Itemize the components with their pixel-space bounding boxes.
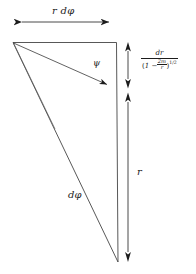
denominator-one-minus: 1 − (145, 62, 158, 70)
right-dimension-lower-arrowhead-top (125, 93, 131, 103)
right-dimension-upper (125, 42, 131, 89)
label-arc-length: r dφ (52, 6, 75, 16)
triangle-right-edge (117, 43, 119, 263)
apex-secondary-ray-line (14, 43, 56, 129)
label-radius-r: r (137, 167, 142, 177)
label-angle-psi: ψ (93, 59, 100, 68)
label-proper-radial-distance: dr (1 −2mr)1/2 (141, 50, 178, 71)
exponent-half: 1/2 (169, 60, 176, 65)
right-dimension-upper-arrowhead-top (125, 42, 131, 52)
right-dimension-lower (125, 93, 131, 263)
figure-container: r dφ ψ dφ r dr (1 −2mr)1/2 (0, 0, 196, 274)
right-dimension-lower-arrowhead-bottom (125, 252, 131, 262)
fraction-denominator: (1 −2mr)1/2 (141, 59, 178, 71)
right-dimension-upper-arrowhead-bottom (125, 79, 131, 89)
apex-secondary-ray (14, 43, 56, 129)
fraction-block: dr (1 −2mr)1/2 (141, 50, 178, 71)
label-hypotenuse-dphi: dφ (68, 190, 81, 200)
diagram-canvas (0, 0, 196, 274)
triangle-hypotenuse (13, 43, 118, 263)
inner-fraction: 2mr (157, 59, 166, 71)
inner-fraction-denominator: r (157, 65, 166, 70)
triangle-outline (13, 43, 118, 263)
